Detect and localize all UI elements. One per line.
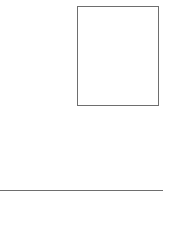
outlined-rectangle <box>77 6 159 106</box>
horizontal-rule <box>0 190 163 191</box>
